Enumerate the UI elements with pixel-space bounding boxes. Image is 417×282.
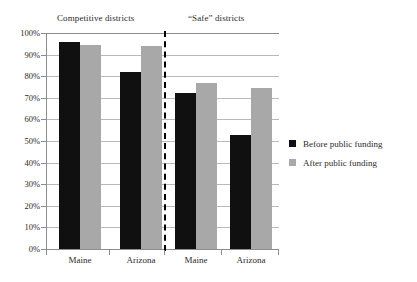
bar-after-2 [196, 83, 217, 249]
y-axis-label-80: 80% [24, 71, 40, 81]
x-axis-separator-2 [164, 250, 165, 255]
y-axis-label-60: 60% [24, 114, 40, 124]
gridline-100 [46, 33, 279, 34]
x-axis-separator-0 [46, 250, 47, 255]
plot-area: 100%90%80%70%60%50%40%30%20%10%0% MaineA… [46, 33, 279, 250]
y-axis-label-40: 40% [24, 158, 40, 168]
legend-label-0: Before public funding [303, 139, 382, 149]
bar-after-0 [80, 45, 101, 249]
y-axis-label-90: 90% [24, 50, 40, 60]
y-axis-label-50: 50% [24, 136, 40, 146]
group-header-safe: “Safe” districts [188, 13, 244, 23]
y-axis-label-100: 100% [20, 28, 40, 38]
x-axis-label-2: Maine [185, 255, 208, 265]
legend-swatch-icon-1 [289, 159, 296, 166]
bar-after-3 [251, 88, 272, 249]
bar-before-1 [120, 72, 141, 249]
legend-label-1: After public funding [303, 158, 377, 168]
x-axis-label-1: Arizona [127, 255, 156, 265]
y-axis-line [46, 33, 47, 250]
legend-item-0[interactable]: Before public funding [289, 134, 382, 153]
x-axis-separator-3 [221, 250, 222, 255]
legend-item-1[interactable]: After public funding [289, 153, 382, 172]
group-header-competitive: Competitive districts [57, 13, 134, 23]
bar-before-0 [59, 42, 80, 249]
legend-swatch-icon-0 [289, 140, 296, 147]
y-axis-label-20: 20% [24, 201, 40, 211]
bar-before-2 [175, 93, 196, 249]
bar-after-1 [141, 46, 162, 249]
y-axis-label-10: 10% [24, 222, 40, 232]
x-axis-separator-1 [109, 250, 110, 255]
bar-before-3 [230, 135, 251, 249]
x-axis-label-3: Arizona [237, 255, 266, 265]
y-axis-label-30: 30% [24, 179, 40, 189]
y-axis-label-0: 0% [29, 244, 40, 254]
bar-chart-figure: Competitive districts “Safe” districts 1… [0, 0, 417, 282]
chart-legend: Before public fundingAfter public fundin… [289, 134, 382, 172]
y-axis-label-70: 70% [24, 93, 40, 103]
x-axis-separator-4 [278, 250, 279, 255]
group-divider-dashed-line [164, 31, 166, 251]
x-axis-label-0: Maine [69, 255, 92, 265]
x-axis-line [46, 249, 279, 250]
